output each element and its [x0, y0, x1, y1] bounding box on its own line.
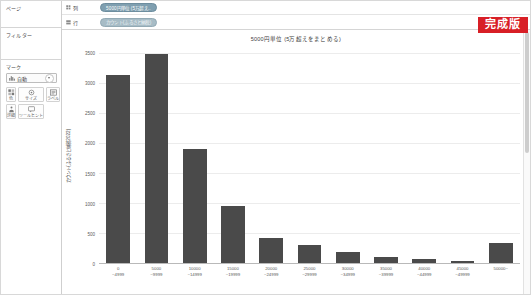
y-axis-tick-label: 2500	[85, 111, 95, 116]
bar-mark[interactable]	[145, 54, 169, 263]
bar-mark[interactable]	[336, 252, 360, 263]
bar-mark[interactable]	[412, 259, 436, 263]
x-label-line1: 20000	[265, 266, 277, 271]
columns-pill[interactable]: 5000円単位 (5万超え..	[100, 3, 157, 12]
x-axis-tick-label: 30000~34999	[329, 266, 367, 294]
x-label-line1: 50000~	[494, 266, 508, 271]
chart-title: 5000円単位 (5万超えをまとめる)	[62, 30, 530, 43]
x-axis-tick-label: 5000~9999	[137, 266, 175, 294]
x-label-line1: 35000	[380, 266, 392, 271]
mark-type-dropdown[interactable]: 自動	[6, 73, 57, 83]
bar-slot	[482, 47, 520, 263]
bar-mark[interactable]	[451, 261, 475, 263]
chevron-down-icon[interactable]	[45, 74, 54, 83]
bar-slot	[367, 47, 405, 263]
vertical-scrollbar[interactable]	[523, 30, 530, 294]
x-axis-tick-label: 40000~44999	[405, 266, 443, 294]
status-badge: 完成版	[478, 17, 528, 33]
bar-slot	[214, 47, 252, 263]
x-axis-tick-label: 50000~	[482, 266, 520, 294]
mark-property-buttons: 色 サイズ ラベル	[6, 87, 57, 119]
x-label-line2: ~4999	[99, 272, 137, 278]
bar-slot	[176, 47, 214, 263]
bar-mark[interactable]	[106, 75, 130, 263]
worksheet-main: 列 5000円単位 (5万超え.. 行 カウント(ふるさと納税) 5000円単位…	[62, 1, 530, 294]
y-axis-title-text: カウント(ふるさと納税2022)	[66, 128, 72, 183]
filters-panel-title: フィルター	[6, 31, 57, 38]
bar-slot	[405, 47, 443, 263]
bar-mark[interactable]	[489, 243, 513, 263]
x-axis-tick-label: 45000~49999	[443, 266, 481, 294]
x-label-line1: 0	[117, 266, 119, 271]
x-label-line1: 25000	[303, 266, 315, 271]
filters-shelf-panel[interactable]: フィルター	[1, 28, 61, 60]
y-axis-tick-label: 1000	[85, 201, 95, 206]
bar-mark-icon	[9, 75, 15, 81]
marks-detail-label: 詳細	[7, 114, 15, 118]
x-label-line1: 15000	[227, 266, 239, 271]
bar-slot	[99, 47, 137, 263]
bar-slot	[252, 47, 290, 263]
x-label-line1: 5000	[152, 266, 162, 271]
rows-shelf-label: 行	[73, 19, 78, 26]
columns-grip-icon	[66, 5, 71, 10]
x-axis-tick-label: 20000~24999	[252, 266, 290, 294]
bar-mark[interactable]	[183, 149, 207, 263]
marks-size-button[interactable]: サイズ	[18, 87, 44, 102]
x-label-line2: ~19999	[214, 272, 252, 278]
y-axis-tick-label: 0	[92, 262, 95, 267]
bar-slot	[290, 47, 328, 263]
columns-shelf[interactable]: 列 5000円単位 (5万超え..	[62, 1, 530, 15]
size-icon	[28, 89, 35, 96]
rows-shelf[interactable]: 行 カウント(ふるさと納税)	[62, 15, 530, 29]
left-sidebar: ページ フィルター マーク 自動	[1, 1, 62, 294]
mark-type-value: 自動	[17, 75, 43, 82]
bar-slot	[137, 47, 175, 263]
marks-card-panel: マーク 自動	[1, 60, 61, 294]
x-label-line2: ~29999	[290, 272, 328, 278]
detail-icon	[8, 106, 15, 113]
marks-size-label: サイズ	[25, 97, 37, 101]
tooltip-icon	[28, 106, 35, 113]
shelves-area: 列 5000円単位 (5万超え.. 行 カウント(ふるさと納税)	[62, 1, 530, 30]
bar-mark[interactable]	[221, 206, 245, 263]
bar-mark[interactable]	[298, 245, 322, 263]
marks-panel-title: マーク	[6, 63, 57, 70]
marks-color-button[interactable]: 色	[6, 87, 16, 102]
columns-shelf-label: 列	[73, 4, 78, 11]
plot-wrapper: カウント(ふるさと納税2022) 05001000150020002500300…	[62, 47, 530, 294]
marks-tooltip-button[interactable]: ツールヒント	[18, 104, 44, 119]
x-label-line2: ~34999	[329, 272, 367, 278]
bar-mark[interactable]	[374, 257, 398, 263]
label-icon	[50, 89, 57, 96]
bar-series	[99, 47, 520, 263]
x-axis-tick-label: 35000~39999	[367, 266, 405, 294]
x-label-line2: ~14999	[176, 272, 214, 278]
tableau-worksheet-window: ページ フィルター マーク 自動	[0, 0, 531, 295]
x-label-line1: 40000	[418, 266, 430, 271]
y-axis-tick-label: 500	[87, 231, 95, 236]
x-axis-tick-label: 25000~29999	[290, 266, 328, 294]
y-axis-tick-label: 2000	[85, 141, 95, 146]
marks-label-button[interactable]: ラベル	[46, 87, 60, 102]
x-axis-tick-label: 0~4999	[99, 266, 137, 294]
rows-grip-icon	[66, 20, 71, 25]
columns-shelf-label-group: 列	[66, 4, 100, 11]
visualization-area: 5000円単位 (5万超えをまとめる) カウント(ふるさと納税2022) 050…	[62, 30, 530, 294]
x-label-line2: ~9999	[137, 272, 175, 278]
x-axis-tick-label: 10000~14999	[176, 266, 214, 294]
y-axis-title: カウント(ふるさと納税2022)	[64, 47, 73, 264]
x-label-line2: ~49999	[443, 272, 481, 278]
marks-color-label: 色	[9, 97, 13, 101]
rows-shelf-label-group: 行	[66, 19, 100, 26]
pages-shelf-panel[interactable]: ページ	[1, 1, 61, 28]
y-axis-ticks: 0500100015002000250030003500	[73, 47, 97, 264]
y-axis-tick-label: 1500	[85, 171, 95, 176]
scrollbar-thumb[interactable]	[525, 32, 529, 153]
bar-mark[interactable]	[259, 238, 283, 263]
color-icon	[8, 89, 15, 96]
rows-pill[interactable]: カウント(ふるさと納税)	[100, 18, 157, 27]
marks-detail-button[interactable]: 詳細	[6, 104, 16, 119]
x-axis-labels: 0~49995000~999910000~1499915000~19999200…	[99, 264, 520, 294]
x-label-line1: 45000	[457, 266, 469, 271]
